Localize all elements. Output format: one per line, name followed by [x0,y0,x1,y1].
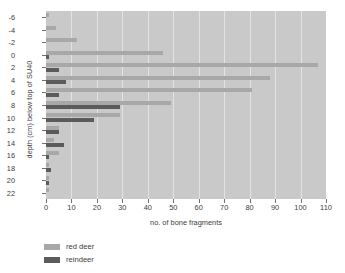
bar-red-deer [46,13,49,17]
x-tick-mark [301,199,302,203]
y-tick-label: 2 [0,63,15,72]
y-tick-mark [42,168,46,169]
y-tick-mark [42,17,46,18]
bar-red-deer [46,63,318,67]
y-tick-label: 0 [0,51,15,60]
legend-swatch [44,244,60,250]
x-axis-title: no. of bone fragments [46,218,326,227]
bar-red-deer [46,101,171,105]
gridline [173,11,174,199]
bar-red-deer [46,151,59,155]
y-tick-label: -6 [0,13,15,22]
y-tick-label: -2 [0,38,15,47]
y-tick-mark [42,67,46,68]
x-tick-mark [71,199,72,203]
legend-label: reindeer [66,255,94,264]
y-axis-title: depth (cm) below top of SU40 [25,25,34,195]
gridline [199,11,200,199]
x-tick-mark [97,199,98,203]
bar-reindeer [46,168,51,172]
bar-reindeer [46,130,59,134]
y-tick-mark [42,42,46,43]
x-tick-mark [173,199,174,203]
y-tick-label: 18 [0,164,15,173]
y-tick-mark [42,155,46,156]
bar-red-deer [46,26,56,30]
legend-item: reindeer [44,254,94,265]
y-tick-mark [42,118,46,119]
bar-reindeer [46,181,49,185]
y-tick-mark [42,30,46,31]
y-tick-mark [42,105,46,106]
x-tick-mark [199,199,200,203]
bar-red-deer [46,176,49,180]
y-tick-mark [42,130,46,131]
bar-red-deer [46,113,120,117]
gridline [122,11,123,199]
y-tick-label: 16 [0,151,15,160]
bar-reindeer [46,143,64,147]
bar-reindeer [46,155,49,159]
y-tick-mark [42,92,46,93]
y-tick-label: 6 [0,88,15,97]
y-tick-mark [42,80,46,81]
bar-reindeer [46,68,59,72]
y-tick-label: 10 [0,114,15,123]
gridline [148,11,149,199]
legend-item: red deer [44,241,94,252]
gridline [301,11,302,199]
legend-swatch [44,257,60,263]
x-tick-mark [224,199,225,203]
bar-reindeer [46,93,59,97]
bar-reindeer [46,118,94,122]
bar-red-deer [46,163,49,167]
bar-red-deer [46,126,59,130]
plot-area [46,11,326,199]
bar-red-deer [46,38,77,42]
bar-red-deer [46,76,270,80]
y-tick-label: -4 [0,26,15,35]
bar-reindeer [46,80,66,84]
y-tick-label: 8 [0,101,15,110]
chart-legend: red deerreindeer [44,241,94,267]
bar-red-deer [46,188,49,192]
x-tick-mark [250,199,251,203]
x-tick-label: 110 [309,203,343,212]
y-tick-mark [42,193,46,194]
legend-label: red deer [66,242,94,251]
y-tick-mark [42,180,46,181]
x-tick-mark [148,199,149,203]
gridline [275,11,276,199]
gridline [250,11,251,199]
y-tick-mark [42,143,46,144]
y-tick-mark [42,55,46,56]
y-tick-label: 22 [0,189,15,198]
x-tick-mark [275,199,276,203]
bar-chart: depth (cm) below top of SU40 -6-4-202468… [0,0,345,273]
x-tick-mark [326,199,327,203]
bar-reindeer [46,105,120,109]
y-tick-label: 4 [0,76,15,85]
x-tick-mark [46,199,47,203]
y-tick-label: 14 [0,139,15,148]
bar-reindeer [46,55,49,59]
y-tick-label: 20 [0,176,15,185]
gridline [224,11,225,199]
bar-red-deer [46,138,54,142]
x-tick-mark [122,199,123,203]
bar-red-deer [46,51,163,55]
bar-red-deer [46,88,252,92]
y-tick-label: 12 [0,126,15,135]
